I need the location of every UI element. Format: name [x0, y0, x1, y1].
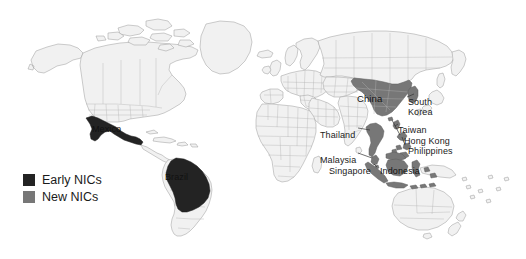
iberia-land — [260, 89, 283, 104]
map-label-china: China — [357, 94, 382, 104]
new-nics-swatch — [23, 191, 35, 203]
sri-lanka-land — [356, 147, 362, 154]
scandinavia-west-land — [285, 45, 298, 66]
legend-item-new-nics: New NICs — [23, 188, 102, 205]
map-label-south-korea: South Korea — [408, 97, 433, 117]
ireland-land — [262, 66, 271, 74]
north-america-group — [28, 19, 273, 163]
australia-land — [392, 187, 454, 230]
map-label-brazil: Brazil — [165, 172, 188, 182]
alaska-land — [28, 44, 83, 73]
greenland-land — [200, 21, 252, 74]
legend-item-early-nics: Early NICs — [23, 171, 102, 188]
map-label-taiwan: Taiwan — [398, 125, 427, 135]
map-label-mexico: Mexico — [92, 124, 121, 134]
legend-label-new-nics: New NICs — [42, 190, 98, 204]
map-legend: Early NICs New NICs — [23, 171, 102, 205]
world-map-figure: Mexico Brazil China South Korea Taiwan H… — [0, 0, 526, 259]
world-map-svg — [0, 0, 526, 259]
africa-group — [256, 104, 322, 182]
map-label-thailand: Thailand — [320, 130, 355, 140]
caribbean-islands-group — [146, 130, 198, 147]
new-zealand-south-land — [448, 222, 461, 236]
tasmania-land — [423, 233, 432, 239]
map-label-malaysia: Malaysia — [320, 155, 356, 165]
scandinavia-land — [296, 38, 320, 70]
south-america-group — [162, 158, 212, 236]
map-label-indonesia: Indonesia — [380, 166, 420, 176]
map-label-singapore: Singapore — [329, 166, 371, 176]
map-label-philippines: Philippines — [408, 146, 453, 156]
iceland-land — [257, 50, 273, 58]
legend-label-early-nics: Early NICs — [42, 173, 102, 187]
map-label-hong-kong: Hong Kong — [404, 136, 450, 146]
british-isles-land — [270, 60, 281, 76]
sakhalin-land — [437, 73, 445, 88]
africa-land — [256, 104, 316, 182]
pacific-islands-group — [462, 175, 509, 203]
central-america-land — [141, 145, 170, 163]
thailand-region — [366, 123, 384, 157]
new-zealand-north-land — [456, 211, 466, 221]
europe-group — [260, 38, 330, 110]
early-nics-swatch — [23, 174, 35, 186]
kamchatka-land — [451, 50, 466, 76]
